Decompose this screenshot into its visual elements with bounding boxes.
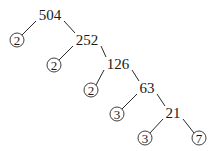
composite-label: 63: [140, 80, 155, 96]
prime-factor-node: 7: [192, 131, 206, 146]
prime-factor-label: 3: [114, 107, 121, 122]
composite-label: 126: [107, 56, 130, 72]
tree-edge: [101, 46, 106, 57]
prime-factor-label: 2: [88, 83, 95, 98]
composite-node: 504: [39, 7, 62, 23]
prime-factor-node: 2: [10, 33, 24, 48]
tree-edge: [64, 21, 75, 33]
composite-label: 504: [39, 7, 62, 23]
composite-node: 21: [166, 105, 181, 121]
prime-factor-node: 2: [84, 83, 98, 98]
tree-edge: [183, 119, 194, 133]
prime-factor-node: 2: [47, 58, 61, 73]
composite-node: 63: [140, 80, 155, 96]
prime-factor-label: 2: [14, 33, 21, 48]
prime-factor-node: 3: [138, 131, 152, 146]
prime-factor-node: 3: [110, 107, 124, 122]
factor-tree-diagram: 5042252212626332137: [0, 0, 215, 151]
tree-edge: [157, 94, 165, 106]
tree-edge: [59, 46, 73, 60]
composite-node: 252: [76, 32, 99, 48]
prime-factor-label: 3: [142, 131, 149, 146]
composite-node: 126: [107, 56, 130, 72]
prime-factor-label: 7: [196, 131, 203, 146]
tree-edge: [122, 94, 137, 109]
tree-edge: [96, 70, 104, 85]
prime-factor-label: 2: [51, 58, 58, 73]
tree-edge: [150, 119, 163, 133]
composite-label: 252: [76, 32, 99, 48]
tree-nodes: 5042252212626332137: [10, 7, 206, 146]
tree-edge: [22, 21, 36, 35]
composite-label: 21: [166, 105, 181, 121]
tree-edge: [132, 70, 139, 81]
